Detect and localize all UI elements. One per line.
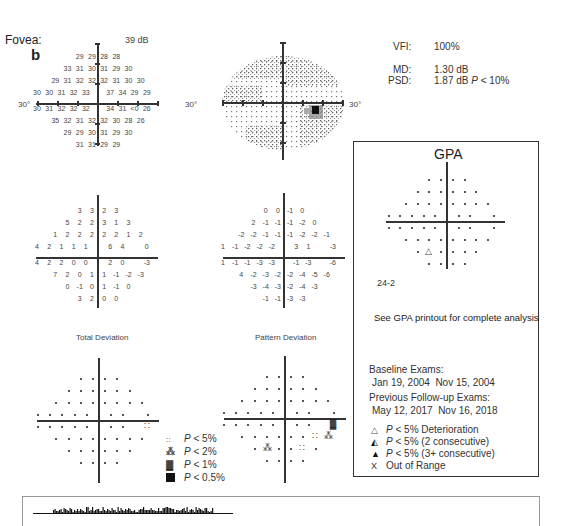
vfi-value: 100% [434,41,460,52]
gaze-tracking-box [22,496,540,526]
probability-dot [129,450,131,452]
gpa-dot [388,227,390,229]
probability-dot [92,450,94,452]
probability-dot [129,390,131,392]
probability-dot [104,450,106,452]
gpa-dot [475,203,477,205]
gpa-legend-2-consecutive: ◭P < 5% (2 consecutive) [371,436,489,447]
gpa-dot [452,263,454,265]
total-deviation-value: 0 [79,259,93,267]
gpa-dot [440,251,442,253]
probability-dot [80,378,82,380]
gpa-dot [440,203,442,205]
pattern-deviation-value: 1 [301,243,315,251]
probability-dot [278,400,280,402]
psd-label: PSD: [388,75,411,86]
gpa-dot [452,203,454,205]
probability-dot [92,462,94,464]
gpa-dot [411,215,413,217]
probability-dot [223,412,225,414]
probability-dot [110,414,112,416]
gpa-dot [452,251,454,253]
probability-dot [116,390,118,392]
probability-dot [266,460,268,462]
psd-value-line: 1.87 dB P < 10% [434,75,509,86]
probability-dot [129,438,131,440]
probability-dot [147,414,149,416]
probability-dot [278,436,280,438]
probability-dot [260,424,262,426]
probability-dot [61,426,63,428]
probability-dot [61,414,63,416]
gpa-legend-3-consecutive: ▲P < 5% (3+ consecutive) [371,448,495,459]
triangle-outline-icon: △ [371,425,386,435]
pd-prob-y-axis [284,356,286,483]
probability-dot [116,462,118,464]
probability-dot [266,436,268,438]
vfi-label: VFI: [393,41,411,52]
probability-symbol: ▓ [330,420,337,429]
gpa-dot [440,239,442,241]
gpa-dot [405,203,407,205]
gpa-dot [423,227,425,229]
legend-p1: ▓P < 1% [166,459,217,470]
probability-dot [278,388,280,390]
probability-dot [80,438,82,440]
probability-dot [290,436,292,438]
probability-dot [141,438,143,440]
probability-dot [296,424,298,426]
gpa-dot [458,215,460,217]
gpa-dot [440,179,442,181]
gpa-y-axis [446,162,448,269]
probability-dot [104,390,106,392]
probability-dot [290,400,292,402]
probability-dot [241,400,243,402]
probability-dot [308,412,310,414]
gpa-dot [405,239,407,241]
pattern-deviation-value: -6 [326,259,340,267]
total-deviation-value: 1 [79,243,93,251]
followup-dates: May 12, 2017 Nov 16, 2018 [372,405,498,416]
probability-dot [272,424,274,426]
probability-dot [110,426,112,428]
probability-dot [141,402,143,404]
probability-dot [241,436,243,438]
gpa-dot [423,215,425,217]
pattern-deviation-value: -2 [265,243,279,251]
baseline-dates: Jan 19, 2004 Nov 15, 2004 [372,377,495,388]
gpa-dot [434,215,436,217]
probability-dot [290,460,292,462]
md-value: 1.30 dB [434,64,468,75]
probability-dot [68,438,70,440]
probability-dot [86,426,88,428]
probability-dot [260,412,262,414]
gpa-dot [469,215,471,217]
probability-dot [266,400,268,402]
probability-dot [74,414,76,416]
probability-dot [290,388,292,390]
pattern-deviation-value: 0 [295,207,309,215]
gpa-dot [399,227,401,229]
gpa-dot [428,191,430,193]
probability-symbol: ∷ [312,432,318,441]
psd-p-prefix: P [471,75,478,86]
probability-dot [92,378,94,380]
pattern-deviation-value: -3 [301,259,315,267]
gpa-dot [469,227,471,229]
total-deviation-value: -3 [134,271,148,279]
gpa-dot [464,179,466,181]
probability-dot [296,412,298,414]
psd-value: 1.87 dB [434,75,468,86]
gpa-dot [475,239,477,241]
td-prob-y-axis [98,358,100,483]
gpa-dot [434,227,436,229]
probability-dot [308,424,310,426]
probability-dot [92,390,94,392]
pattern-deviation-value: -3 [295,295,309,303]
gpa-dot [440,263,442,265]
gpa-legend-deterioration: △P < 5% Deterioration [371,424,479,435]
probability-dot [254,400,256,402]
gpa-dot [475,191,477,193]
probability-dot [315,388,317,390]
probability-dot [80,390,82,392]
